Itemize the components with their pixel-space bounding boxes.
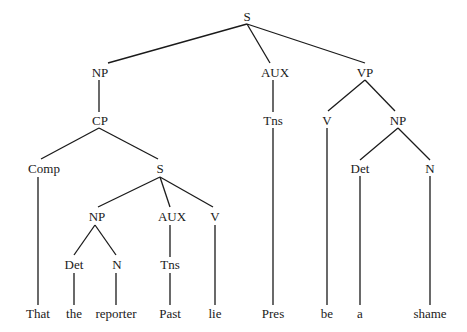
leaf-word-w-a: a xyxy=(357,307,363,320)
tree-edge xyxy=(360,128,398,160)
node-s-emb: S xyxy=(156,162,163,175)
node-v-emb: V xyxy=(210,210,219,223)
node-vp-main: VP xyxy=(357,66,374,79)
node-det-emb: Det xyxy=(65,258,84,271)
leaf-word-w-lie: lie xyxy=(209,307,222,320)
tree-edge xyxy=(99,128,158,159)
leaf-word-w-the: the xyxy=(66,307,82,320)
tree-edge xyxy=(398,128,430,160)
node-np-subj: NP xyxy=(92,66,109,79)
node-v-main: V xyxy=(322,114,331,127)
node-tns-main: Tns xyxy=(263,114,283,127)
node-np-obj: NP xyxy=(390,114,407,127)
node-aux-emb: AUX xyxy=(158,210,186,223)
node-n-obj: N xyxy=(425,162,434,175)
leaf-word-w-pres: Pres xyxy=(262,307,284,320)
tree-edge xyxy=(95,225,116,255)
node-aux-main: AUX xyxy=(261,66,289,79)
node-comp: Comp xyxy=(28,162,60,175)
tree-edge xyxy=(98,177,160,207)
node-s-root: S xyxy=(243,10,250,23)
leaf-word-w-past: Past xyxy=(159,307,181,320)
leaf-word-w-reporter: reporter xyxy=(95,307,136,320)
node-np-emb: NP xyxy=(89,210,106,223)
tree-edge xyxy=(328,80,365,111)
tree-edges xyxy=(0,0,467,332)
tree-edge xyxy=(365,80,395,111)
node-tns-emb: Tns xyxy=(160,258,180,271)
tree-edge xyxy=(108,24,247,63)
leaf-word-w-shame: shame xyxy=(413,307,446,320)
tree-edge xyxy=(247,24,365,63)
node-det-obj: Det xyxy=(351,162,370,175)
leaf-word-w-be: be xyxy=(321,307,333,320)
leaf-word-w-that: That xyxy=(26,307,50,320)
node-cp: CP xyxy=(92,114,108,127)
syntax-tree-diagram: SNPAUXVPCPTnsVNPCompSDetNNPAUXVDetNTnsTh… xyxy=(0,0,467,332)
node-n-emb: N xyxy=(112,258,121,271)
tree-edge xyxy=(41,128,99,159)
tree-edge xyxy=(74,225,95,255)
